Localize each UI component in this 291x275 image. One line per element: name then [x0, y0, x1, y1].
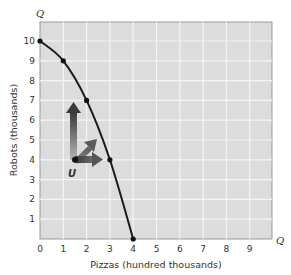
y-tick-label: 6: [29, 115, 35, 125]
x-tick-label: 9: [247, 244, 253, 254]
y-tick-label: 5: [29, 135, 35, 145]
y-tick-label: 9: [29, 56, 35, 66]
y-tick-label: 3: [29, 175, 35, 185]
curve-point: [61, 58, 66, 63]
x-tick-label: 1: [60, 244, 66, 254]
x-axis-q-label: Q: [276, 235, 284, 246]
x-tick-label: 6: [177, 244, 183, 254]
y-axis-q-label: Q: [36, 8, 44, 19]
y-tick-label: 2: [29, 194, 35, 204]
y-axis-title: Robots (thousands): [8, 84, 19, 176]
x-tick-label: 8: [224, 244, 230, 254]
curve-point: [131, 236, 136, 241]
y-tick-label: 1: [29, 214, 35, 224]
x-axis-ticks: 0123456789: [37, 244, 253, 254]
x-tick-label: 0: [37, 244, 43, 254]
y-tick-label: 7: [29, 95, 35, 105]
y-tick-label: 4: [29, 155, 35, 165]
x-tick-label: 4: [130, 244, 136, 254]
curve-point: [37, 38, 42, 43]
curve-point: [107, 157, 112, 162]
x-tick-label: 7: [200, 244, 206, 254]
point-u: [72, 157, 78, 163]
x-tick-label: 3: [107, 244, 113, 254]
ppf-chart: 0123456789 12345678910 Q Q Pizzas (hundr…: [0, 0, 291, 275]
x-tick-label: 5: [154, 244, 160, 254]
y-tick-label: 10: [24, 36, 36, 46]
point-u-label: U: [68, 168, 76, 179]
curve-point: [84, 98, 89, 103]
y-tick-label: 8: [29, 76, 35, 86]
x-axis-title: Pizzas (hundred thousands): [90, 259, 221, 270]
x-tick-label: 2: [84, 244, 90, 254]
y-axis-ticks: 12345678910: [24, 36, 36, 224]
